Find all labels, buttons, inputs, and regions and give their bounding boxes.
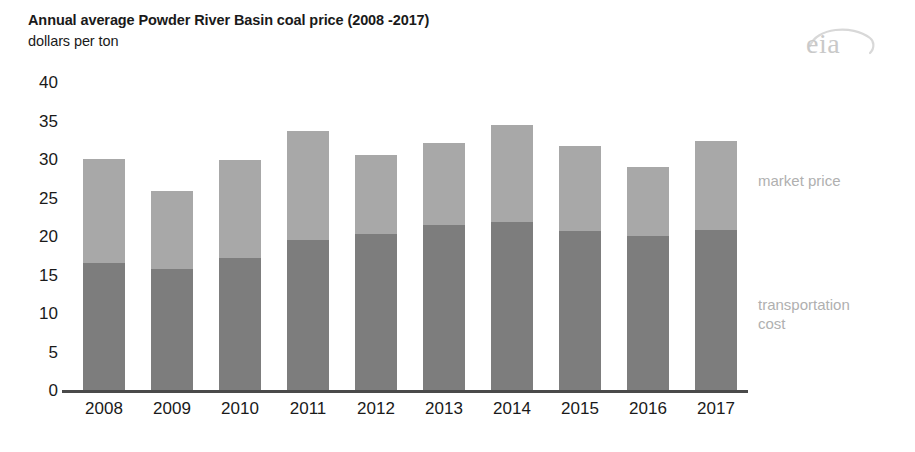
bar-segment-transportation-cost[interactable] — [423, 225, 465, 390]
y-axis-tick-label: 10 — [14, 305, 58, 322]
bar-segment-market-price[interactable] — [423, 143, 465, 225]
bar-group[interactable] — [559, 82, 601, 390]
bar-group[interactable] — [287, 82, 329, 390]
y-axis-tick-label: 35 — [14, 113, 58, 130]
bar-segment-market-price[interactable] — [627, 167, 669, 236]
bar-segment-transportation-cost[interactable] — [491, 222, 533, 390]
bar-segment-transportation-cost[interactable] — [559, 231, 601, 390]
y-axis-tick-label: 15 — [14, 267, 58, 284]
bar-group[interactable] — [219, 82, 261, 390]
bar-segment-market-price[interactable] — [151, 191, 193, 269]
x-axis-tick-label: 2015 — [549, 400, 611, 417]
bar-segment-transportation-cost[interactable] — [287, 240, 329, 390]
bar-segment-transportation-cost[interactable] — [695, 230, 737, 390]
y-axis-tick-label: 25 — [14, 190, 58, 207]
x-axis-tick-label: 2014 — [481, 400, 543, 417]
y-axis-tick-label: 0 — [14, 382, 58, 399]
x-axis-tick-label: 2009 — [141, 400, 203, 417]
bar-segment-transportation-cost[interactable] — [627, 236, 669, 390]
y-axis-tick-label: 5 — [14, 344, 58, 361]
bar-group[interactable] — [151, 82, 193, 390]
bar-segment-transportation-cost[interactable] — [151, 269, 193, 390]
legend-label-transportation-cost: transportation cost — [758, 296, 850, 334]
y-axis-tick-label: 40 — [14, 74, 58, 91]
x-axis-tick-label: 2010 — [209, 400, 271, 417]
x-axis-tick-label: 2008 — [73, 400, 135, 417]
x-axis-tick-label: 2017 — [685, 400, 747, 417]
bar-segment-market-price[interactable] — [83, 159, 125, 263]
bar-group[interactable] — [491, 82, 533, 390]
bar-group[interactable] — [355, 82, 397, 390]
x-axis-tick-label: 2012 — [345, 400, 407, 417]
bar-segment-market-price[interactable] — [491, 125, 533, 222]
bar-segment-market-price[interactable] — [287, 131, 329, 240]
x-axis-tick-label: 2013 — [413, 400, 475, 417]
y-axis-tick-label: 30 — [14, 151, 58, 168]
bar-segment-market-price[interactable] — [355, 155, 397, 234]
bar-segment-market-price[interactable] — [559, 146, 601, 231]
x-axis-tick-label: 2016 — [617, 400, 679, 417]
bar-group[interactable] — [423, 82, 465, 390]
legend-label-market-price: market price — [758, 172, 841, 191]
x-axis-tick-label: 2011 — [277, 400, 339, 417]
x-axis-line — [62, 390, 748, 393]
y-axis-tick-label: 20 — [14, 228, 58, 245]
bar-segment-market-price[interactable] — [219, 160, 261, 258]
bar-group[interactable] — [627, 82, 669, 390]
bar-segment-market-price[interactable] — [695, 141, 737, 230]
chart-root: Annual average Powder River Basin coal p… — [0, 0, 915, 452]
bar-segment-transportation-cost[interactable] — [355, 234, 397, 390]
bar-group[interactable] — [83, 82, 125, 390]
bar-group[interactable] — [695, 82, 737, 390]
bar-segment-transportation-cost[interactable] — [83, 263, 125, 390]
bar-segment-transportation-cost[interactable] — [219, 258, 261, 390]
plot-area: 0510152025303540200820092010201120122013… — [0, 0, 915, 452]
